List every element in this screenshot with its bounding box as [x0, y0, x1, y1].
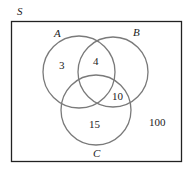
set-label-c: C [93, 147, 101, 159]
universe-label: S [17, 5, 23, 17]
region-outside: 100 [149, 116, 166, 128]
set-label-a: A [53, 27, 61, 39]
region-c-only: 15 [89, 118, 101, 130]
region-a-only: 3 [59, 59, 65, 71]
set-label-b: B [133, 26, 140, 38]
universe-rectangle [12, 22, 182, 162]
circle-a [43, 36, 115, 108]
venn-diagram: S A B C 3 4 10 15 100 [0, 0, 190, 171]
circle-c [61, 75, 131, 145]
region-b-c-only: 10 [112, 90, 124, 102]
region-a-b-only: 4 [93, 55, 99, 67]
